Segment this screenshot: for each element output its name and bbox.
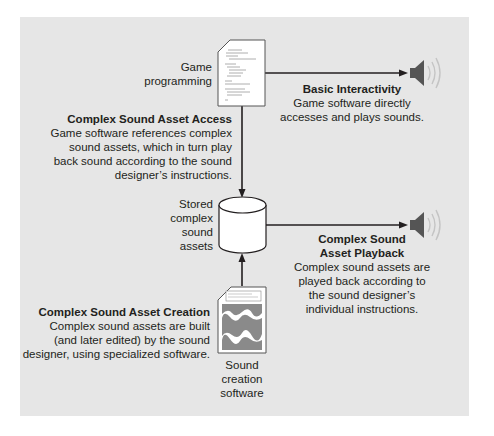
label-line: Sound: [205, 358, 279, 372]
annotation-title: Basic Interactivity: [272, 82, 432, 96]
code-document-icon: [218, 40, 265, 106]
annotation-line: back sound according to the sound: [20, 154, 232, 168]
label-line: Game: [140, 60, 212, 74]
label-line: complex: [150, 211, 213, 225]
label-line: software: [205, 386, 279, 400]
annotation-line: sound assets, which in turn play: [20, 140, 232, 154]
annotation-line: (and later edited) by the sound: [10, 333, 210, 347]
annotation-line: played back according to: [284, 274, 440, 288]
basic-interactivity-annotation: Basic Interactivity Game software direct…: [272, 82, 432, 124]
annotation-title: Complex Sound Asset Creation: [10, 305, 210, 319]
label-line: assets: [150, 239, 213, 253]
annotation-line: the sound designer’s: [284, 288, 440, 302]
label-line: Stored: [150, 197, 213, 211]
annotation-line: accesses and plays sounds.: [272, 110, 432, 124]
label-line: sound: [150, 225, 213, 239]
asset-playback-annotation: Complex Sound Asset Playback Complex sou…: [284, 232, 440, 316]
game-programming-label: Game programming: [140, 60, 212, 88]
annotation-line: individual instructions.: [284, 302, 440, 316]
annotation-line: designer, using specialized software.: [10, 347, 210, 361]
asset-creation-annotation: Complex Sound Asset Creation Complex sou…: [10, 305, 210, 361]
annotation-title: Asset Playback: [284, 246, 440, 260]
annotation-title: Complex Sound: [284, 232, 440, 246]
label-line: creation: [205, 372, 279, 386]
annotation-line: Game software references complex: [20, 126, 232, 140]
database-cylinder-icon: [219, 197, 266, 253]
sound-creation-label: Sound creation software: [205, 358, 279, 400]
waveform-document-icon: [218, 287, 266, 353]
stored-assets-label: Stored complex sound assets: [150, 197, 213, 253]
label-line: programming: [140, 74, 212, 88]
annotation-line: Game software directly: [272, 96, 432, 110]
annotation-line: Complex sound assets are: [284, 260, 440, 274]
asset-access-annotation: Complex Sound Asset Access Game software…: [20, 112, 232, 182]
annotation-line: designer’s instructions.: [20, 168, 232, 182]
annotation-line: Complex sound assets are built: [10, 319, 210, 333]
annotation-title: Complex Sound Asset Access: [20, 112, 232, 126]
